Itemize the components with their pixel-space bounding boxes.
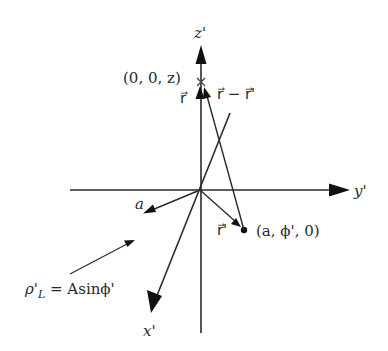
y-axis-label: y' [353, 182, 367, 200]
r-minus-r-prime-arrowhead-icon [203, 87, 211, 99]
x-axis-label: x' [143, 322, 156, 340]
r-minus-r-prime-label: r⃗ − r⃗' [217, 85, 255, 103]
radius-label: a [135, 195, 144, 213]
rho-subscript: L [37, 288, 45, 301]
r-minus-r-prime-vector: r⃗ − r⃗' [203, 85, 255, 230]
y-axis: y' [70, 182, 367, 200]
r-prime-label: r⃗' [217, 221, 227, 239]
z-axis-arrowhead-icon [196, 45, 207, 64]
r-label: r⃗ [180, 89, 188, 107]
y-axis-arrowhead-icon [329, 184, 350, 197]
source-point-label: (a, ϕ', 0) [256, 222, 320, 240]
field-point: (0, 0, z) [123, 69, 205, 87]
radius-arrowhead-icon [143, 205, 156, 214]
annotation-arrowhead-icon [124, 240, 135, 247]
field-point-label: (0, 0, z) [123, 69, 181, 87]
z-axis-label: z' [193, 24, 206, 42]
rho-equals: = Asinϕ' [45, 280, 114, 298]
rho-symbol: ρ' [24, 280, 38, 298]
coordinate-diagram: z' y' x' a r⃗' (a, ϕ', 0) r⃗ − r⃗' r⃗ [0, 0, 388, 351]
r-arrowhead-icon [196, 86, 205, 99]
radius-vector-a: a [135, 190, 200, 214]
source-point: (a, ϕ', 0) [241, 222, 320, 240]
x-axis-arrowhead-icon [147, 290, 162, 313]
line-charge-annotation: ρ'L = Asinϕ' [24, 240, 135, 301]
line-charge-formula: ρ'L = Asinϕ' [24, 280, 115, 301]
